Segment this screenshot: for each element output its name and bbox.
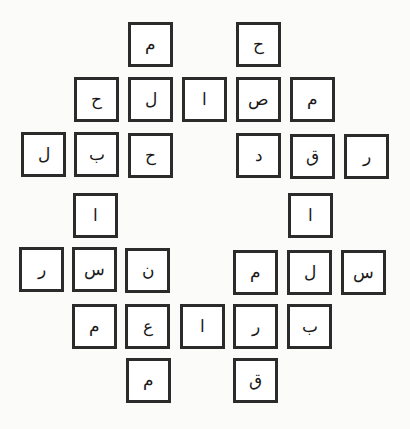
tile-letter: س: [84, 261, 105, 278]
tile-letter: ح: [91, 91, 102, 108]
tile-letter: ن: [142, 262, 154, 279]
letter-tile[interactable]: س: [72, 247, 117, 292]
tile-letter: ا: [93, 207, 98, 224]
tile-letter: ا: [202, 91, 207, 108]
letter-tile[interactable]: ح: [236, 22, 281, 67]
letter-tile[interactable]: ق: [290, 134, 335, 179]
letter-tile[interactable]: م: [72, 304, 117, 349]
tile-letter: ل: [38, 146, 50, 163]
letter-tile[interactable]: د: [236, 133, 281, 178]
letter-tile[interactable]: ص: [236, 77, 281, 122]
tile-letter: م: [143, 372, 154, 389]
letter-tile[interactable]: ح: [128, 133, 173, 178]
tile-letter: د: [255, 147, 263, 164]
tile-letter: ب: [89, 146, 105, 163]
letter-tile[interactable]: ل: [21, 132, 66, 177]
tile-letter: م: [250, 264, 261, 281]
tile-letter: ع: [143, 318, 153, 335]
tile-letter: ق: [306, 148, 319, 165]
letter-tile[interactable]: ر: [233, 304, 278, 349]
letter-tile[interactable]: ن: [125, 248, 170, 293]
tile-letter: م: [145, 36, 156, 53]
tile-letter: ل: [145, 91, 157, 108]
tile-letter: ل: [304, 264, 316, 281]
tile-letter: ص: [248, 91, 269, 108]
letter-tile[interactable]: ب: [74, 132, 119, 177]
tile-letter: ر: [38, 261, 46, 278]
tile-letter: س: [353, 264, 374, 281]
letter-tile[interactable]: ق: [233, 358, 278, 403]
letter-tile[interactable]: ا: [182, 77, 227, 122]
tile-letter: ق: [249, 372, 262, 389]
letter-tile[interactable]: ا: [73, 193, 118, 238]
tile-letter: م: [307, 91, 318, 108]
letter-tile[interactable]: ع: [125, 304, 170, 349]
letter-tile[interactable]: ب: [287, 304, 332, 349]
letter-tile[interactable]: م: [128, 22, 173, 67]
tile-letter: ر: [363, 148, 371, 165]
letter-grid-board: مححلاصملبحدقراارسنملسمعاربمق: [0, 0, 410, 429]
letter-tile[interactable]: ا: [180, 304, 225, 349]
tile-letter: ا: [200, 318, 205, 335]
tile-letter: ح: [253, 36, 264, 53]
letter-tile[interactable]: ل: [128, 77, 173, 122]
tile-letter: م: [89, 318, 100, 335]
tile-letter: ب: [302, 318, 318, 335]
letter-tile[interactable]: م: [233, 250, 278, 295]
tile-letter: ا: [308, 207, 313, 224]
tile-letter: ر: [252, 318, 260, 335]
letter-tile[interactable]: ر: [19, 247, 64, 292]
letter-tile[interactable]: ح: [74, 77, 119, 122]
letter-tile[interactable]: ر: [344, 134, 389, 179]
letter-tile[interactable]: م: [126, 358, 171, 403]
tile-letter: ح: [145, 147, 156, 164]
letter-tile[interactable]: س: [341, 250, 386, 295]
letter-tile[interactable]: ل: [287, 250, 332, 295]
letter-tile[interactable]: م: [290, 77, 335, 122]
letter-tile[interactable]: ا: [288, 193, 333, 238]
